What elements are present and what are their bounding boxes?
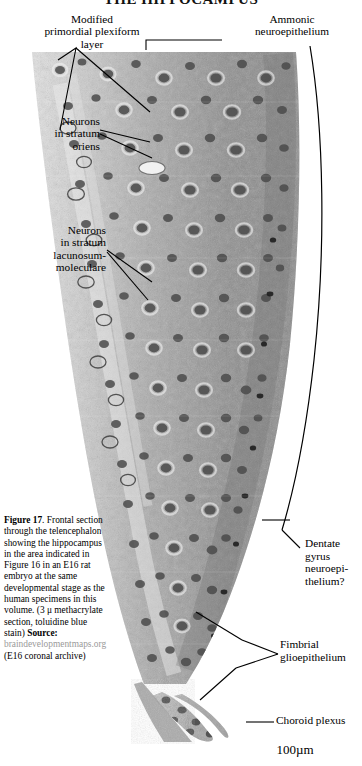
caption-body: . Frontal section through the telencepha… (4, 515, 105, 638)
page-title: THE HIPPOCAMPUS (0, 0, 362, 8)
figure-page: THE HIPPOCAMPUS (0, 0, 362, 766)
label-dentate-gyrus-neuroepithelium: Dentate gyrus neuroepi- thelium? (305, 537, 361, 587)
label-modified-primordial-plexiform-layer: Modified primordial plexiform layer (6, 13, 178, 50)
scale-bar-label: 100µm (240, 742, 350, 758)
label-neurons-stratum-oriens: Neurons in stratum oriens (2, 115, 100, 152)
caption-figure-number: Figure 17 (4, 515, 42, 525)
figure-caption: Figure 17. Frontal section through the t… (4, 515, 108, 662)
caption-source-url: braindevelopmentmaps.org (4, 639, 106, 649)
label-choroid-plexus: Choroid plexus (276, 714, 362, 726)
caption-source-suffix: (E16 coronal archive) (4, 651, 86, 661)
caption-source-label: Source: (27, 628, 58, 638)
label-ammonic-neuroepithelium: Ammonic neuroepithelium (225, 13, 359, 38)
label-neurons-stratum-lacunosum-moleculare: Neurons in stratum lacunosum- moleculare (2, 224, 106, 274)
label-fimbrial-glioepithelium: Fimbrial glioepithelium (280, 638, 362, 663)
